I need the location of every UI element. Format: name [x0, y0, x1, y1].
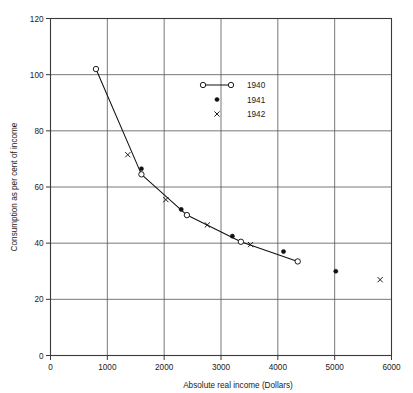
legend-marker-open-circle-icon: [228, 82, 233, 87]
x-tick-label: 0: [48, 363, 53, 372]
data-point-1940: [295, 259, 300, 264]
y-tick-label: 20: [34, 295, 44, 304]
y-tick-label: 80: [34, 127, 44, 136]
x-tick-label: 3000: [212, 363, 231, 372]
chart-figure: 0100020003000400050006000020406080100120…: [0, 0, 413, 393]
x-axis-title: Absolute real income (Dollars): [183, 381, 293, 390]
x-tick-label: 1000: [98, 363, 117, 372]
data-point-1941: [281, 249, 285, 253]
legend-label-1942: 1942: [247, 110, 266, 119]
data-point-1940: [184, 212, 189, 217]
y-tick-label: 120: [30, 15, 44, 24]
y-tick-label: 100: [30, 71, 44, 80]
data-point-1941: [334, 269, 338, 273]
data-point-1941: [139, 167, 143, 171]
x-tick-label: 5000: [326, 363, 345, 372]
legend-label-1941: 1941: [247, 96, 266, 105]
x-tick-label: 4000: [269, 363, 288, 372]
data-point-1941: [179, 207, 183, 211]
legend-marker-filled-circle-icon: [215, 97, 219, 101]
y-tick-label: 40: [34, 239, 44, 248]
y-tick-label: 60: [34, 183, 44, 192]
y-axis-title: Consumption as per cent of income: [10, 122, 19, 251]
x-tick-label: 2000: [155, 363, 174, 372]
chart-background: [0, 0, 413, 393]
data-point-1940: [139, 172, 144, 177]
chart-svg: 0100020003000400050006000020406080100120…: [0, 0, 413, 393]
x-tick-label: 6000: [382, 363, 401, 372]
data-point-1941: [230, 234, 234, 238]
legend-marker-open-circle-icon: [200, 82, 205, 87]
data-point-1940: [238, 239, 243, 244]
data-point-1940: [93, 66, 98, 71]
y-tick-label: 0: [39, 352, 44, 361]
legend-label-1940: 1940: [247, 81, 266, 90]
